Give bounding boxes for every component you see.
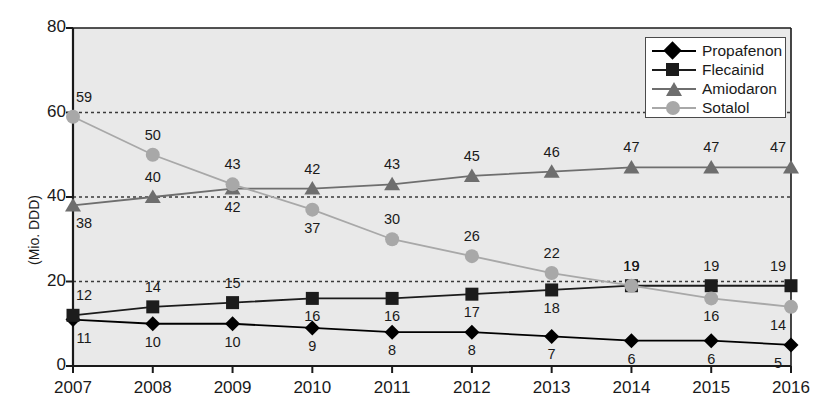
- gridlines: [73, 113, 791, 282]
- data-label: 47: [616, 139, 646, 155]
- data-label: 9: [297, 338, 327, 354]
- y-tick-label: 0: [18, 355, 66, 375]
- legend-item-sotalol: Sotalol: [652, 99, 749, 117]
- data-label: 19: [763, 258, 793, 274]
- data-label: 11: [69, 330, 99, 346]
- data-label: 45: [457, 148, 487, 164]
- data-label: 8: [377, 342, 407, 358]
- data-label: 5: [763, 355, 793, 371]
- legend-label: Sotalol: [702, 99, 749, 117]
- data-label: 16: [377, 308, 407, 324]
- data-label: 18: [537, 300, 567, 316]
- x-tick-label: 2008: [116, 378, 190, 398]
- data-label: 47: [763, 139, 793, 155]
- data-label: 30: [377, 211, 407, 227]
- triangle-marker: [652, 81, 696, 97]
- x-tick-label: 2010: [275, 378, 349, 398]
- x-tick-label: 2007: [36, 378, 110, 398]
- data-label: 42: [297, 161, 327, 177]
- data-label: 42: [218, 199, 248, 215]
- legend-item-flecainid: Flecainid: [652, 61, 764, 79]
- chart-container: (Mio. DDD) 020406080 2007200820092010201…: [0, 0, 825, 413]
- data-label: 14: [138, 279, 168, 295]
- x-tick-label: 2016: [754, 378, 825, 398]
- y-tick-label: 20: [18, 271, 66, 291]
- y-tick-label: 80: [18, 17, 66, 37]
- data-label: 12: [69, 287, 99, 303]
- data-label: 6: [616, 351, 646, 367]
- data-label: 59: [69, 89, 99, 105]
- x-tick-label: 2011: [355, 378, 429, 398]
- data-label: 8: [457, 342, 487, 358]
- data-label: 16: [696, 308, 726, 324]
- series-lines: [73, 117, 791, 345]
- x-tick-label: 2014: [594, 378, 668, 398]
- diamond-marker: [652, 43, 696, 59]
- x-tick-label: 2013: [515, 378, 589, 398]
- data-label: 50: [138, 127, 168, 143]
- legend: PropafenonFlecainidAmiodaronSotalol: [645, 37, 786, 118]
- data-label: 19: [696, 258, 726, 274]
- x-tick-label: 2015: [674, 378, 748, 398]
- x-tick-label: 2009: [196, 378, 270, 398]
- data-label: 10: [218, 334, 248, 350]
- circle-marker: [652, 100, 696, 116]
- data-label: 15: [218, 275, 248, 291]
- data-label: 40: [138, 169, 168, 185]
- y-tick-label: 60: [18, 102, 66, 122]
- data-label: 17: [457, 304, 487, 320]
- data-label: 16: [297, 308, 327, 324]
- data-label: 22: [537, 245, 567, 261]
- data-label: 10: [138, 334, 168, 350]
- data-label: 6: [696, 351, 726, 367]
- square-marker: [652, 62, 696, 78]
- data-label: 37: [297, 220, 327, 236]
- legend-label: Amiodaron: [702, 80, 777, 98]
- data-label: 47: [696, 139, 726, 155]
- data-label: 7: [537, 346, 567, 362]
- data-label: 26: [457, 228, 487, 244]
- data-label: 38: [69, 215, 99, 231]
- series-markers: [65, 110, 799, 353]
- legend-label: Propafenon: [702, 42, 782, 60]
- x-tick-label: 2012: [435, 378, 509, 398]
- data-label: 43: [377, 156, 407, 172]
- y-tick-label: 40: [18, 186, 66, 206]
- legend-item-propafenon: Propafenon: [652, 42, 782, 60]
- data-label: 19: [616, 258, 646, 274]
- data-label: 14: [763, 317, 793, 333]
- data-label: 43: [218, 156, 248, 172]
- legend-item-amiodaron: Amiodaron: [652, 80, 777, 98]
- data-label: 46: [537, 144, 567, 160]
- legend-label: Flecainid: [702, 61, 764, 79]
